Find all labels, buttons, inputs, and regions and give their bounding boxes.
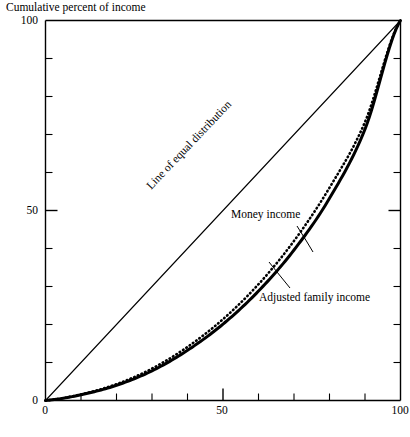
- lorenz-curve-chart: Cumulative percent of income 100 50 0 0 …: [0, 0, 410, 437]
- annotation-money-income: Money income: [231, 208, 300, 221]
- y-axis-ticks-right: [389, 59, 401, 363]
- series-line-of-equal-distribution: [46, 21, 401, 401]
- x-axis-ticks: [81, 389, 365, 401]
- annotation-adjusted-family-income: Adjusted family income: [259, 291, 370, 304]
- plot-area: [0, 0, 410, 437]
- y-axis-ticks: [46, 59, 58, 363]
